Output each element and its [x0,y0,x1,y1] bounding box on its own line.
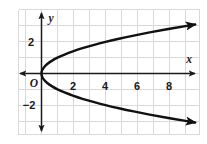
y-tick-label-minus-2: −2 [23,99,36,111]
x-tick-label-4: 4 [102,80,109,92]
x-tick-label-8: 8 [166,80,172,92]
y-tick-label-2: 2 [28,36,34,48]
x-axis-label: x [185,53,192,65]
x-tick-label-2: 2 [70,80,76,92]
canvas-background [0,0,207,144]
graph-figure: 2 4 6 8 2 −2 O x y [0,0,207,144]
coordinate-plane-svg: 2 4 6 8 2 −2 O x y [0,0,207,144]
x-tick-label-6: 6 [134,80,140,92]
y-axis-label: y [46,12,54,25]
origin-label: O [30,77,38,89]
